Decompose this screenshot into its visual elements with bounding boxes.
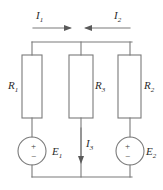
resistor-label-R3: R3 <box>95 80 105 94</box>
current-I1-arrowhead <box>64 25 72 31</box>
source-label-E1: E1 <box>52 146 62 160</box>
current-label-I3: I3 <box>86 138 93 152</box>
current-I3-arrowhead <box>78 156 84 164</box>
resistor-R2-body <box>118 55 141 118</box>
source-E1-plus-sign: + <box>31 142 36 151</box>
current-I2-arrowhead <box>84 25 92 31</box>
circuit-schematic-graphic <box>0 0 163 190</box>
source-label-E2: E2 <box>146 146 156 160</box>
source-E2-plus-sign: + <box>125 142 130 151</box>
source-E2-minus-sign: − <box>125 152 130 161</box>
resistor-R1-body <box>22 55 42 118</box>
resistor-label-R2: R2 <box>144 80 154 94</box>
resistor-R3-body <box>69 55 93 118</box>
current-label-I2: I2 <box>114 10 121 24</box>
current-label-I1: I1 <box>36 10 43 24</box>
circuit-diagram: I1 I2 I3 R1 R3 R2 E1 E2 + − + − <box>0 0 163 190</box>
resistor-label-R1: R1 <box>8 80 18 94</box>
source-E1-minus-sign: − <box>31 152 36 161</box>
